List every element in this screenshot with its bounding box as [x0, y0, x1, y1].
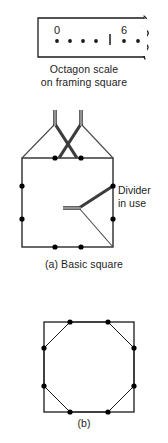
octagon-scale-detail: 0 6	[38, 16, 148, 59]
scale-tick-label-6: 6	[121, 24, 127, 36]
octagon-vertex	[105, 409, 110, 414]
scale-tick-label-0: 0	[54, 24, 60, 36]
divider-leg-thin	[81, 124, 113, 158]
scale-dot	[122, 39, 126, 43]
inscribed-octagon	[44, 322, 134, 412]
octagon-square-outline	[44, 322, 134, 412]
octagon-vertex	[41, 383, 46, 388]
octagon-vertex	[41, 345, 46, 350]
scale-dot	[68, 39, 72, 43]
panel-b-diagram	[41, 319, 136, 414]
divider-leg-thick	[79, 186, 113, 208]
basic-square-outline	[22, 158, 113, 247]
panel-a-diagram	[19, 110, 115, 250]
layout-point	[52, 155, 57, 160]
layout-point	[78, 244, 83, 249]
divider-leg-thick	[55, 124, 77, 158]
octagon-vertex	[105, 319, 110, 324]
layout-point	[52, 244, 57, 249]
scale-edge-mask	[143, 19, 147, 56]
divider-annotation-line-1: Divider	[118, 184, 151, 197]
panel-a-caption: (a) Basic square	[0, 258, 168, 271]
layout-point	[110, 183, 115, 188]
layout-point	[78, 155, 83, 160]
octagon-vertex	[67, 409, 72, 414]
divider-leg-thin	[79, 208, 113, 247]
divider-annotation-line-2: in use	[118, 197, 151, 210]
divider-leg-thin	[22, 124, 55, 158]
scale-dot	[55, 39, 59, 43]
scale-caption-line-2: on framing square	[0, 76, 168, 89]
octagon-vertex	[67, 319, 72, 324]
scale-dot	[81, 39, 85, 43]
divider-top-right	[59, 110, 113, 158]
scale-dot	[136, 39, 140, 43]
panel-b-caption: (b)	[0, 417, 168, 430]
scale-dot	[94, 39, 98, 43]
divider-right-side	[63, 186, 113, 247]
divider-top-left	[22, 110, 77, 158]
layout-point	[19, 183, 24, 188]
layout-point-group-a	[19, 155, 115, 249]
layout-point	[110, 216, 115, 221]
scale-caption-line-1: Octagon scale	[0, 63, 168, 76]
layout-point	[19, 216, 24, 221]
octagon-vertex	[131, 345, 136, 350]
divider-leg-thick	[59, 124, 81, 158]
octagon-vertex	[131, 383, 136, 388]
layout-point-group-b	[41, 319, 136, 414]
divider-annotation: Divider in use	[118, 184, 151, 210]
scale-caption: Octagon scale on framing square	[0, 63, 168, 88]
